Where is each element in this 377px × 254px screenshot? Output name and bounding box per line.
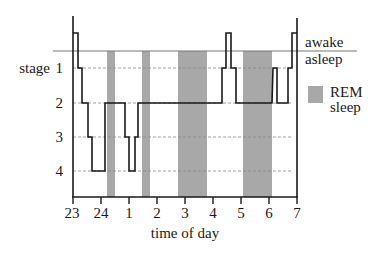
awake-label: awake (305, 34, 344, 50)
rem-band-2 (142, 51, 150, 197)
x-axis-title: time of day (151, 225, 220, 241)
x-tick-label-23: 23 (65, 205, 80, 221)
legend: REM sleep (308, 84, 363, 115)
y-tick-label-2: 2 (56, 95, 64, 111)
rem-band-1 (107, 51, 115, 197)
x-tick-label-1: 1 (125, 205, 133, 221)
asleep-label: asleep (305, 51, 342, 67)
rem-band-3 (178, 51, 207, 197)
x-tick-label-4: 4 (209, 205, 217, 221)
legend-rem-label-line1: REM (330, 84, 363, 100)
legend-rem-label-line2: sleep (330, 99, 361, 115)
x-tick-label-5: 5 (237, 205, 245, 221)
x-tick-label-2: 2 (153, 205, 161, 221)
y-tick-label-3: 3 (56, 129, 64, 145)
x-tick-label-24: 24 (94, 205, 110, 221)
y-tick-label-4: 4 (56, 163, 64, 179)
x-ticks (73, 197, 297, 204)
legend-rem-swatch (308, 86, 323, 103)
x-tick-label-7: 7 (293, 205, 301, 221)
y-axis-title: stage (19, 60, 50, 76)
rem-band-4 (243, 51, 272, 197)
x-tick-label-3: 3 (181, 205, 189, 221)
y-tick-label-1: 1 (56, 60, 64, 76)
sleep-hypnogram-chart: 23 24 1 2 3 4 5 6 7 time of day stage 1 … (0, 0, 377, 254)
rem-bands (107, 51, 272, 197)
x-tick-label-6: 6 (265, 205, 273, 221)
